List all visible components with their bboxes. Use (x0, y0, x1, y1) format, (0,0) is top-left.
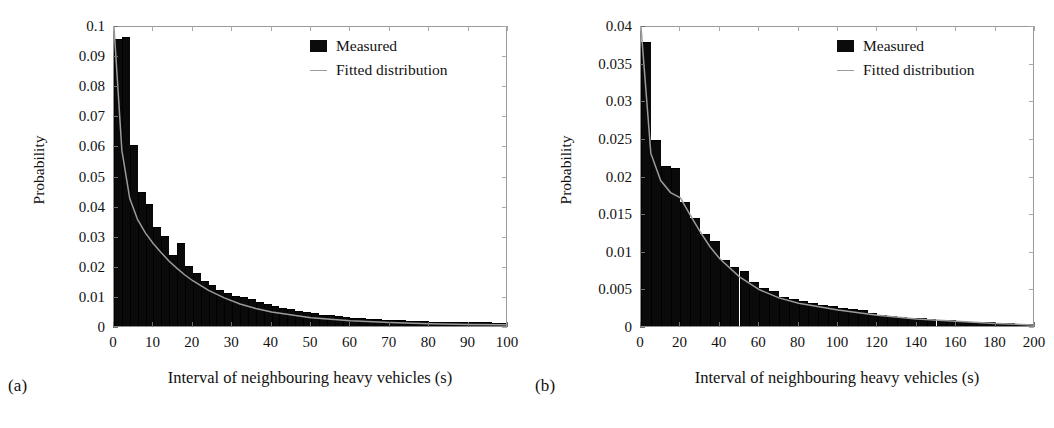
y-tick-label: 0.04 (0, 198, 105, 215)
x-tick-mark (113, 322, 114, 327)
x-tick-mark-top (719, 26, 720, 31)
x-tick-label: 140 (905, 334, 928, 351)
x-tick-mark (389, 322, 390, 327)
x-tick-mark (507, 322, 508, 327)
legend-a: MeasuredFitted distribution (310, 34, 448, 82)
x-tick-label: 60 (342, 334, 357, 351)
y-tick-mark (640, 214, 645, 215)
histogram-bar (153, 227, 161, 326)
x-tick-mark-top (679, 26, 680, 31)
y-tick-mark (113, 327, 118, 328)
histogram-bar (956, 321, 966, 326)
x-tick-mark-top (916, 26, 917, 31)
x-tick-label: 40 (711, 334, 726, 351)
y-tick-mark (113, 86, 118, 87)
x-tick-mark (876, 322, 877, 327)
histogram-bar (358, 318, 366, 326)
x-tick-mark (916, 322, 917, 327)
histogram-bar (700, 234, 710, 326)
y-tick-label: 0.02 (527, 168, 632, 185)
histogram-bar (641, 42, 651, 326)
histogram-bar (749, 282, 759, 326)
figure-container: Probability 00.010.020.030.040.050.060.0… (0, 0, 1054, 428)
x-tick-mark (640, 322, 641, 327)
y-tick-label: 0.02 (0, 258, 105, 275)
histogram-bar (740, 271, 750, 326)
histogram-bar (240, 297, 248, 326)
x-tick-mark-top (349, 26, 350, 31)
x-tick-mark (758, 322, 759, 327)
histogram-bar (799, 301, 809, 326)
histogram-bar (996, 323, 1006, 326)
histogram-bar (201, 281, 209, 326)
histogram-bar (1005, 323, 1015, 326)
x-tick-mark-top (995, 26, 996, 31)
histogram-bar (1025, 324, 1034, 326)
panel-caption-b: (b) (535, 376, 555, 396)
histogram-bar (808, 303, 818, 326)
x-tick-label: 80 (790, 334, 805, 351)
histogram-bar (651, 140, 661, 326)
legend-item: Measured (837, 34, 975, 58)
x-axis-title-a: Interval of neighbouring heavy vehicles … (113, 368, 507, 388)
y-tick-label: 0.09 (0, 48, 105, 65)
histogram-bar (311, 313, 319, 326)
y-tick-label: 0 (0, 319, 105, 336)
y-tick-mark-right (1029, 64, 1034, 65)
x-tick-mark (798, 322, 799, 327)
y-tick-label: 0 (527, 319, 632, 336)
y-tick-mark (640, 101, 645, 102)
histogram-bar (730, 267, 740, 326)
x-tick-mark-top (955, 26, 956, 31)
x-tick-label: 50 (303, 334, 318, 351)
x-tick-label: 30 (224, 334, 239, 351)
histogram-bar (858, 310, 868, 326)
histogram-bar (248, 299, 256, 326)
y-tick-mark (113, 267, 118, 268)
legend-b: MeasuredFitted distribution (837, 34, 975, 82)
x-tick-mark-top (1034, 26, 1035, 31)
histogram-bar (429, 322, 437, 327)
histogram-bar (927, 319, 937, 326)
histogram-bar (661, 166, 671, 326)
histogram-bar (680, 202, 690, 326)
histogram-bar (406, 321, 414, 326)
histogram-bar (256, 302, 264, 326)
y-tick-label: 0.005 (527, 281, 632, 298)
y-tick-mark (640, 139, 645, 140)
histogram-bar (209, 285, 217, 326)
x-tick-label: 10 (145, 334, 160, 351)
x-tick-mark-top (113, 26, 114, 31)
x-tick-mark (995, 322, 996, 327)
histogram-bar (492, 323, 500, 326)
y-tick-label: 0.03 (0, 228, 105, 245)
x-tick-mark-top (798, 26, 799, 31)
histogram-bar (122, 37, 130, 326)
histogram-bar (232, 296, 240, 326)
histogram-bar (146, 204, 154, 326)
x-tick-mark-top (640, 26, 641, 31)
x-tick-mark (837, 322, 838, 327)
x-tick-mark-top (758, 26, 759, 31)
histogram-bar (966, 322, 976, 327)
legend-item: Fitted distribution (837, 58, 975, 82)
legend-square-icon (837, 40, 854, 52)
x-tick-mark (192, 322, 193, 327)
x-tick-mark (468, 322, 469, 327)
legend-label: Measured (863, 34, 924, 58)
y-tick-mark (113, 116, 118, 117)
histogram-bar (279, 308, 287, 326)
y-tick-label: 0.05 (0, 168, 105, 185)
x-tick-label: 60 (751, 334, 766, 351)
legend-label: Measured (336, 34, 397, 58)
histogram-bar (476, 322, 484, 326)
y-tick-mark-right (502, 116, 507, 117)
x-tick-mark-top (231, 26, 232, 31)
y-tick-mark-right (1029, 101, 1034, 102)
y-tick-mark (113, 146, 118, 147)
histogram-bar (193, 273, 201, 326)
x-tick-label: 0 (636, 334, 644, 351)
histogram-bar (818, 305, 828, 326)
x-tick-label: 200 (1023, 334, 1046, 351)
x-tick-mark-top (507, 26, 508, 31)
